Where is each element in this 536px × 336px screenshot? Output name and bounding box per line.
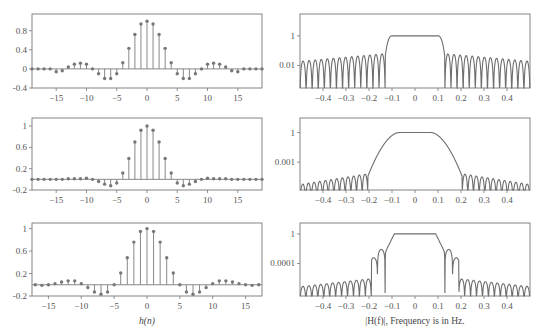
stem-marker: [127, 157, 130, 160]
stem-marker: [48, 178, 51, 181]
stem-marker: [185, 290, 188, 293]
x-tick-label: −0.1: [384, 195, 400, 205]
stem-marker: [250, 284, 253, 287]
stem-marker: [121, 171, 124, 174]
stem-marker: [218, 177, 221, 180]
right-xlabel: |H(f)|, Frequency is in Hz.: [365, 316, 464, 327]
x-tick-label: 0: [413, 93, 418, 103]
stem-marker: [170, 171, 173, 174]
magnitude-response-plot-1: −0.4−0.3−0.2−0.100.10.20.30.410.01: [279, 14, 530, 103]
stem-marker: [53, 282, 56, 285]
stem-marker: [244, 283, 247, 286]
x-tick-label: 0.1: [432, 93, 443, 103]
stem-marker: [126, 256, 129, 259]
y-tick-label: 1: [23, 224, 28, 234]
stem-marker: [139, 230, 142, 233]
y-tick-label: 0.2: [16, 164, 27, 174]
stem-marker: [224, 279, 227, 282]
stem-marker: [242, 178, 245, 181]
stem-marker: [191, 293, 194, 296]
x-tick-label: 15: [233, 195, 243, 205]
stem-marker: [194, 180, 197, 183]
stem-marker: [157, 140, 160, 143]
stem-marker: [85, 62, 88, 65]
stem-marker: [151, 22, 154, 25]
magnitude-curve: [300, 36, 530, 88]
stem-marker: [157, 33, 160, 36]
stem-marker: [236, 70, 239, 73]
x-tick-label: −15: [49, 195, 64, 205]
y-tick-label: -0.2: [13, 185, 27, 195]
stem-marker: [224, 177, 227, 180]
stem-marker: [224, 65, 227, 68]
stem-marker: [178, 283, 181, 286]
y-tick-label: 0.001: [275, 157, 295, 167]
stem-marker: [145, 19, 148, 22]
y-tick-label: 0.6: [16, 246, 28, 256]
stem-marker: [163, 47, 166, 50]
x-tick-label: 0.4: [501, 195, 513, 205]
stem-marker: [139, 129, 142, 132]
plot-frame: [300, 118, 530, 190]
stem-marker: [218, 279, 221, 282]
stem-marker: [40, 284, 43, 287]
x-tick-label: −0.1: [384, 93, 400, 103]
x-tick-label: −0.2: [361, 195, 377, 205]
x-tick-label: 0: [145, 301, 150, 311]
stem-marker: [36, 178, 39, 181]
impulse-response-plot-1: −15−10−5051015-0.400.40.8: [13, 14, 264, 103]
stem-marker: [133, 140, 136, 143]
stem-marker: [198, 290, 201, 293]
stem-marker: [48, 67, 51, 70]
x-tick-label: 0.2: [455, 195, 466, 205]
stem-marker: [127, 47, 130, 50]
stem-marker: [152, 230, 155, 233]
stem-marker: [103, 77, 106, 80]
x-tick-label: 5: [175, 195, 180, 205]
x-tick-label: 0.3: [478, 195, 490, 205]
y-tick-label: 0.2: [16, 269, 27, 279]
stem-marker: [103, 182, 106, 185]
x-tick-label: 0.1: [432, 195, 443, 205]
stem-marker: [109, 184, 112, 187]
x-tick-label: −15: [49, 93, 64, 103]
x-tick-label: −0.3: [338, 195, 355, 205]
stem-marker: [112, 283, 115, 286]
x-tick-label: 0: [413, 195, 418, 205]
x-tick-label: 0: [145, 93, 150, 103]
stem-marker: [79, 61, 82, 64]
stem-marker: [206, 177, 209, 180]
stem-marker: [55, 178, 58, 181]
stem-marker: [182, 184, 185, 187]
y-tick-label: -0.4: [13, 83, 28, 93]
x-tick-label: −15: [41, 301, 56, 311]
stem-marker: [230, 69, 233, 72]
stem-marker: [200, 178, 203, 181]
x-tick-label: −0.4: [315, 93, 332, 103]
stem-marker: [182, 77, 185, 80]
stem-marker: [85, 177, 88, 180]
stem-marker: [139, 22, 142, 25]
magnitude-curve: [300, 133, 530, 190]
stem-marker: [194, 72, 197, 75]
stem-marker: [206, 62, 209, 65]
x-tick-label: 0.2: [455, 93, 466, 103]
stem-marker: [163, 157, 166, 160]
y-tick-label: 0: [23, 64, 28, 74]
stem-marker: [97, 72, 100, 75]
y-tick-label: 1: [291, 31, 296, 41]
stem-marker: [97, 180, 100, 183]
stem-marker: [257, 283, 260, 286]
x-tick-label: −0.1: [384, 301, 400, 311]
stem-marker: [61, 178, 64, 181]
y-tick-label: 0.4: [16, 45, 28, 55]
x-tick-label: −5: [112, 93, 122, 103]
stem-marker: [91, 67, 94, 70]
stem-marker: [133, 33, 136, 36]
x-tick-label: 0.2: [455, 301, 466, 311]
y-tick-label: 0.0001: [270, 258, 295, 268]
stem-marker: [172, 271, 175, 274]
stem-marker: [60, 280, 63, 283]
x-tick-label: −0.4: [315, 301, 332, 311]
stem-marker: [79, 177, 82, 180]
